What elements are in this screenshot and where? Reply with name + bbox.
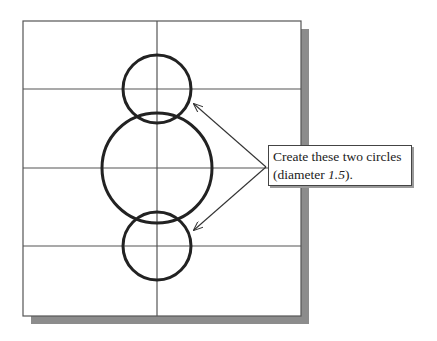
- diameter-value: 1.5: [328, 167, 345, 182]
- callout-line-1: Create these two circles: [273, 148, 411, 166]
- callout-line-2: (diameter 1.5).: [273, 166, 411, 184]
- callout-label: Create these two circles (diameter 1.5).: [268, 145, 412, 186]
